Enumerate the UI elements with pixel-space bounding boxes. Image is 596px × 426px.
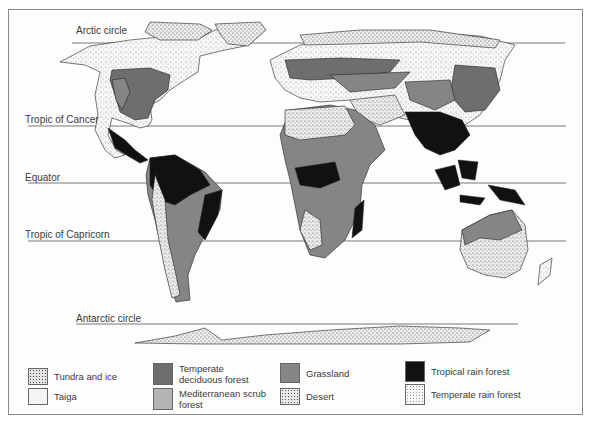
legend-item-desert: Desert (280, 388, 334, 405)
tropical-rain-forest-swatch-icon (405, 361, 425, 382)
australia (460, 210, 552, 285)
tundra-swatch-icon (28, 368, 48, 385)
grassland-swatch-icon (280, 363, 300, 383)
desert-swatch-icon (280, 388, 300, 405)
antarctica (135, 326, 490, 344)
southeast-asia-islands (435, 160, 525, 205)
taiga-swatch-icon (28, 388, 48, 405)
temperate-rain-forest-swatch-icon (405, 384, 425, 405)
arctic-circle-label: Arctic circle (76, 25, 127, 36)
temperate-deciduous-swatch-icon (153, 363, 173, 385)
africa (280, 105, 385, 258)
legend-item-taiga: Taiga (28, 388, 77, 405)
tropic-of-capricorn-label: Tropic of Capricorn (25, 229, 110, 240)
legend-item-tropical-rain-forest: Tropical rain forest (405, 361, 509, 382)
legend-item-tundra: Tundra and ice (28, 368, 117, 385)
legend-item-mediterranean-scrub-forest: Mediterranean scrub forest (153, 388, 269, 410)
equator-label: Equator (25, 172, 60, 183)
tropic-of-cancer-label: Tropic of Cancer (25, 114, 99, 125)
legend-item-temperate-deciduous-forest: Temperate deciduous forest (153, 363, 269, 385)
south-america (146, 155, 222, 302)
antarctic-circle-label: Antarctic circle (76, 313, 141, 324)
legend-item-grassland: Grassland (280, 363, 349, 383)
legend-item-temperate-rain-forest: Temperate rain forest (405, 384, 521, 405)
mediterranean-scrub-swatch-icon (153, 388, 173, 410)
